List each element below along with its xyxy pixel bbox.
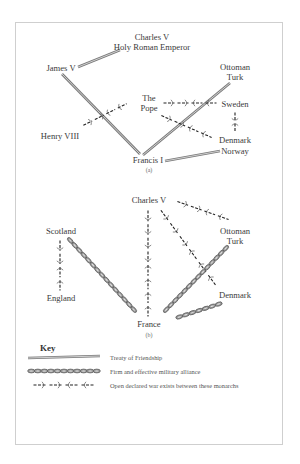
node-b-scotland: Scotland — [46, 226, 77, 236]
war-arrow-icon — [190, 126, 193, 132]
key-label-treaty: Treaty of Friendship — [110, 354, 162, 361]
alliance-scotland-france — [66, 237, 137, 314]
war-scotland-england — [57, 241, 63, 291]
node-a-james-v: James V — [46, 63, 76, 73]
war-henry-pope — [83, 104, 126, 126]
relation-lines — [28, 50, 239, 388]
key-label-alliance: Firm and effective military alliance — [110, 368, 201, 375]
key-war-glyph — [34, 382, 95, 388]
node-a-ottoman-line1: Ottoman — [220, 62, 251, 72]
war-arrow-icon — [203, 131, 206, 137]
treaty-francisi-norway — [165, 151, 220, 161]
node-b-charles-v: Charles V — [132, 195, 167, 205]
key-title: Key — [40, 343, 56, 353]
node-b-france: France — [137, 319, 161, 329]
war-arrow-icon — [145, 231, 151, 233]
war-pope-sweden — [164, 100, 217, 106]
war-arrow-icon — [173, 228, 178, 232]
war-arrow-icon — [206, 209, 209, 215]
alliance-denmark-france — [175, 301, 222, 320]
node-b-england: England — [47, 293, 76, 303]
node-a-sweden: Sweden — [221, 99, 249, 109]
war-arrow-icon — [145, 218, 151, 220]
war-arrow-icon — [163, 215, 168, 219]
war-arrow-icon — [185, 100, 187, 106]
war-arrow-icon — [220, 214, 223, 220]
node-b-denmark: Denmark — [219, 290, 252, 300]
war-arrow-icon — [171, 100, 173, 106]
node-b-ottoman-line2: Turk — [227, 236, 244, 246]
key-label-war: Open declared war exists between these m… — [110, 382, 239, 389]
node-a-ottoman-line2: Turk — [227, 72, 244, 82]
treaty-ottoman-francisi — [143, 83, 230, 155]
caption-b: (b) — [146, 332, 153, 339]
war-arrow-icon — [182, 241, 187, 245]
node-a-henry-viii: Henry VIII — [41, 131, 79, 141]
node-a-pope-line2: Pope — [140, 103, 157, 113]
node-a-norway-line2: Norway — [221, 146, 249, 156]
node-a-charles-v-line2: Holy Roman Emperor — [114, 42, 191, 52]
war-arrow-icon — [84, 382, 86, 388]
war-sweden-denmark — [232, 113, 238, 132]
node-b-ottoman-line1: Ottoman — [220, 226, 251, 236]
war-charlesv-ottoman — [177, 201, 228, 220]
node-a-denmark-line1: Denmark — [219, 135, 252, 145]
node-a-pope-line1: The — [142, 93, 156, 103]
war-charlesv-france — [145, 211, 151, 317]
war-arrow-icon — [68, 382, 70, 388]
war-arrow-icon — [145, 259, 151, 261]
key-alliance-glyph — [28, 369, 101, 373]
node-a-francis-i: Francis I — [133, 155, 163, 165]
node-a-charles-v-line1: Charles V — [135, 32, 170, 42]
war-arrow-icon — [145, 245, 151, 247]
treaty-charlesv-jamesv — [78, 50, 120, 67]
caption-a: (a) — [146, 167, 153, 174]
diagram-canvas: Charles V Holy Roman Emperor James V Ott… — [0, 0, 300, 464]
war-charlesv-denmark — [161, 210, 216, 286]
key-treaty-glyph — [28, 356, 100, 358]
